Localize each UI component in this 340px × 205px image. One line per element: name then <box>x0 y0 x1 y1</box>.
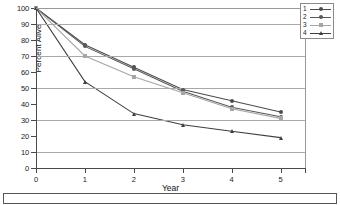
x-axis-tick <box>232 168 233 173</box>
data-point-4-year-1 <box>83 80 87 84</box>
y-axis-tick-label: 60 <box>3 68 29 77</box>
legend-sample-square-icon <box>310 21 331 29</box>
y-axis-tick-label: 10 <box>3 148 29 157</box>
y-axis-tick-label: 20 <box>3 132 29 141</box>
data-point-4-year-4 <box>230 129 234 133</box>
y-axis-line <box>36 8 37 168</box>
data-point-4-year-2 <box>132 112 136 116</box>
data-point-3-year-3 <box>181 91 185 95</box>
x-axis-tick <box>305 168 306 173</box>
data-point-1-year-5 <box>279 110 283 114</box>
legend-item-label: 4 <box>303 29 310 37</box>
legend-item-label: 3 <box>303 21 310 29</box>
data-point-3-year-1 <box>83 54 87 58</box>
legend-item-label: 1 <box>303 5 310 13</box>
plot-area <box>36 8 305 168</box>
y-axis-tick-label: 30 <box>3 116 29 125</box>
x-axis-tick <box>85 168 86 173</box>
x-axis-tick <box>183 168 184 173</box>
series-line-4 <box>36 8 281 138</box>
y-axis-tick-label: 80 <box>3 36 29 45</box>
data-point-1-year-4 <box>230 99 234 103</box>
data-point-4-year-3 <box>181 123 185 127</box>
legend-item-1: 1 <box>303 5 331 13</box>
y-axis-tick-label: 90 <box>3 20 29 29</box>
data-point-3-year-5 <box>279 116 283 120</box>
x-axis-title: Year <box>36 183 305 193</box>
y-axis-tick-label: 50 <box>3 84 29 93</box>
data-point-2-year-2 <box>132 67 136 71</box>
data-point-3-year-4 <box>230 107 234 111</box>
x-axis-tick <box>36 168 37 173</box>
y-axis-tick-label: 40 <box>3 100 29 109</box>
y-axis-tick-label: 100 <box>3 4 29 13</box>
x-axis-tick <box>134 168 135 173</box>
data-point-4-year-5 <box>279 136 283 140</box>
survival-line-chart: Percent Alive 0102030405060708090100 012… <box>0 0 340 172</box>
gridline <box>36 120 305 121</box>
gridline <box>36 88 305 89</box>
x-axis-line <box>36 168 305 169</box>
plot-frame-top <box>36 8 305 9</box>
gridline <box>36 24 305 25</box>
legend-item-2: 2 <box>303 13 331 21</box>
legend-item-label: 2 <box>303 13 310 21</box>
data-point-3-year-2 <box>132 75 136 79</box>
gridline <box>36 152 305 153</box>
x-axis-tick <box>281 168 282 173</box>
legend-sample-circle-icon <box>310 5 331 13</box>
gridline <box>36 56 305 57</box>
caption-box <box>3 193 337 204</box>
legend-sample-triangle-icon <box>310 29 331 37</box>
y-axis-tick-label: 0 <box>3 164 29 173</box>
y-axis-tick-label: 70 <box>3 52 29 61</box>
legend: 1234 <box>300 3 334 39</box>
legend-sample-circle-icon <box>310 13 331 21</box>
figure-panel: Percent Alive 0102030405060708090100 012… <box>0 0 340 205</box>
legend-item-4: 4 <box>303 29 331 37</box>
data-point-2-year-1 <box>83 44 87 48</box>
legend-item-3: 3 <box>303 21 331 29</box>
